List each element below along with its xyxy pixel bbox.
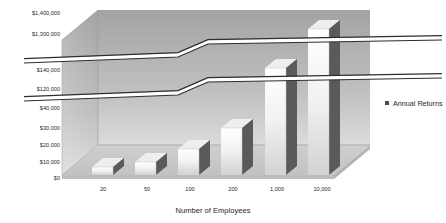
bar-side-face [329, 20, 340, 175]
bar-front-face [221, 128, 242, 175]
bar-front-face [178, 149, 199, 175]
x-axis-labels: 20 50 100 200 1,000 10,000 [100, 186, 331, 192]
y-tick-label-1300000: $1,300,000 [32, 31, 60, 37]
chart-container: $1,400,000 $1,300,000 $140,000 $120,000 … [0, 0, 446, 223]
x-tick-label-100: 100 [185, 186, 194, 192]
x-tick-label-20: 20 [100, 186, 106, 192]
x-axis-title: Number of Employees [175, 206, 250, 215]
bar-10000[interactable] [308, 20, 340, 175]
x-tick-label-200: 200 [228, 186, 237, 192]
y-tick-label-30000: $30,000 [40, 125, 60, 131]
y-tick-label-0: $0 [54, 175, 60, 181]
legend-label-annual-returns: Annual Returns [393, 99, 443, 108]
x-tick-label-10000: 10,000 [313, 186, 330, 192]
bar-side-face [242, 119, 253, 175]
bar-200[interactable] [221, 119, 253, 175]
x-tick-label-50: 50 [144, 186, 150, 192]
legend-marker-icon [385, 101, 389, 105]
floor-front-edge [62, 175, 334, 179]
y-tick-label-120000: $120,000 [37, 86, 60, 92]
bar-100[interactable] [178, 140, 210, 175]
bar-front-face [135, 162, 156, 175]
y-tick-label-1400000: $1,400,000 [32, 10, 60, 16]
y-tick-label-40000: $40,000 [40, 105, 60, 111]
bar-front-face [92, 167, 113, 175]
legend: Annual Returns [385, 99, 443, 108]
x-tick-label-1000: 1,000 [270, 186, 284, 192]
bar-chart-3d: $1,400,000 $1,300,000 $140,000 $120,000 … [0, 0, 446, 223]
bar-front-face [308, 29, 329, 175]
y-tick-label-10000: $10,000 [40, 159, 60, 165]
bar-front-face [265, 68, 286, 175]
y-tick-label-20000: $20,000 [40, 142, 60, 148]
y-tick-label-140000: $140,000 [37, 67, 60, 73]
